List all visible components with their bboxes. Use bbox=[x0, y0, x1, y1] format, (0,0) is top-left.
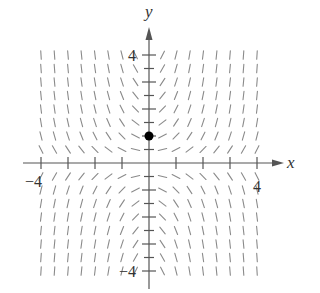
slope-segment bbox=[41, 91, 42, 100]
x-axis-arrow-icon bbox=[272, 160, 284, 167]
slope-segment bbox=[79, 173, 84, 180]
slope-segment bbox=[229, 213, 230, 221]
slope-segment bbox=[229, 118, 231, 126]
slope-segment bbox=[52, 173, 56, 180]
slope-segment bbox=[216, 267, 217, 276]
slope-segment bbox=[67, 213, 68, 221]
slope-segment bbox=[228, 146, 233, 153]
slope-segment bbox=[201, 186, 205, 194]
slope-segment bbox=[189, 78, 191, 86]
slope-segment bbox=[175, 267, 177, 275]
slope-segment bbox=[54, 78, 55, 87]
slope-segment bbox=[93, 132, 97, 140]
slope-segment bbox=[41, 253, 42, 262]
slope-segment bbox=[202, 51, 203, 60]
slope-segment bbox=[132, 106, 138, 112]
slope-segment bbox=[216, 253, 217, 262]
slope-segment bbox=[40, 199, 41, 207]
slope-segment bbox=[68, 253, 69, 262]
slope-segment bbox=[107, 200, 111, 208]
slope-segment bbox=[214, 146, 219, 153]
slope-segment bbox=[161, 51, 165, 59]
slope-segment bbox=[133, 240, 138, 247]
slope-segment bbox=[40, 118, 41, 126]
slope-segment bbox=[242, 132, 244, 140]
slope-segment bbox=[54, 91, 55, 100]
slope-segment bbox=[68, 240, 69, 249]
slope-segment bbox=[67, 91, 68, 100]
slope-segment bbox=[93, 186, 97, 194]
slope-segment bbox=[94, 51, 95, 60]
slope-segment bbox=[161, 267, 165, 275]
slope-segment bbox=[80, 118, 82, 126]
slope-segment bbox=[257, 64, 258, 73]
slope-segment bbox=[214, 173, 219, 180]
y-tick-label-neg4: −4 bbox=[119, 263, 136, 280]
slope-segment bbox=[160, 65, 164, 72]
slope-segment bbox=[132, 214, 138, 220]
slope-segment bbox=[107, 213, 110, 221]
y-axis-label: y bbox=[143, 2, 153, 21]
slope-segment bbox=[41, 226, 42, 235]
slope-segment bbox=[105, 174, 112, 179]
slope-segment bbox=[160, 78, 165, 85]
slope-segment bbox=[241, 173, 245, 180]
slope-segment bbox=[107, 105, 110, 113]
slope-segment bbox=[39, 146, 43, 154]
slope-segment bbox=[52, 146, 56, 153]
slope-segment bbox=[121, 253, 123, 261]
slope-segment bbox=[202, 253, 203, 262]
slope-segment bbox=[108, 51, 109, 59]
slope-segment bbox=[121, 78, 124, 86]
slope-segment bbox=[186, 174, 193, 179]
slope-segment bbox=[81, 213, 83, 221]
slope-segment bbox=[81, 226, 82, 235]
slope-segment bbox=[107, 119, 111, 127]
slope-segment bbox=[174, 200, 179, 207]
y-axis-arrow-icon bbox=[146, 27, 153, 40]
slope-segment bbox=[230, 51, 231, 60]
slope-segment bbox=[119, 187, 125, 193]
slope-segment bbox=[108, 267, 109, 275]
slope-segment bbox=[243, 64, 244, 73]
x-axis-label: x bbox=[286, 153, 295, 172]
slope-segment bbox=[256, 199, 257, 207]
slope-segment bbox=[108, 240, 110, 248]
slope-segment bbox=[66, 146, 71, 153]
slope-segment bbox=[41, 64, 42, 73]
slope-segment bbox=[67, 132, 70, 140]
slope-segment bbox=[160, 92, 165, 99]
slope-segment bbox=[67, 118, 69, 126]
slope-segment bbox=[94, 118, 97, 126]
slope-segment bbox=[81, 253, 82, 262]
slope-segment bbox=[68, 78, 69, 87]
slope-segment bbox=[172, 175, 180, 179]
slope-segment bbox=[120, 92, 123, 100]
x-tick-label-neg4: −4 bbox=[25, 173, 42, 190]
slope-segment bbox=[81, 105, 83, 113]
slope-segment bbox=[189, 51, 190, 59]
slope-segment bbox=[120, 200, 125, 207]
slope-segment bbox=[118, 175, 126, 179]
slope-segment bbox=[68, 51, 69, 60]
slope-segment bbox=[173, 187, 179, 193]
slope-segment bbox=[174, 119, 179, 126]
slope-segment bbox=[121, 51, 123, 59]
slope-segment bbox=[188, 200, 192, 208]
slope-segment bbox=[228, 173, 233, 180]
slope-segment bbox=[67, 226, 68, 235]
slope-segment bbox=[175, 51, 177, 59]
slope-segment bbox=[243, 78, 244, 87]
slope-segment bbox=[94, 253, 95, 262]
slope-segment bbox=[81, 51, 82, 60]
slope-segment bbox=[133, 78, 138, 85]
slope-segment bbox=[106, 132, 111, 139]
slope-segment bbox=[188, 226, 190, 234]
slope-segment bbox=[108, 78, 110, 86]
slope-segment bbox=[174, 213, 178, 221]
slope-segment bbox=[81, 267, 82, 276]
slope-segment bbox=[256, 213, 257, 222]
slope-segment bbox=[120, 119, 125, 126]
slope-segment bbox=[202, 118, 205, 126]
slope-segment bbox=[202, 226, 204, 234]
